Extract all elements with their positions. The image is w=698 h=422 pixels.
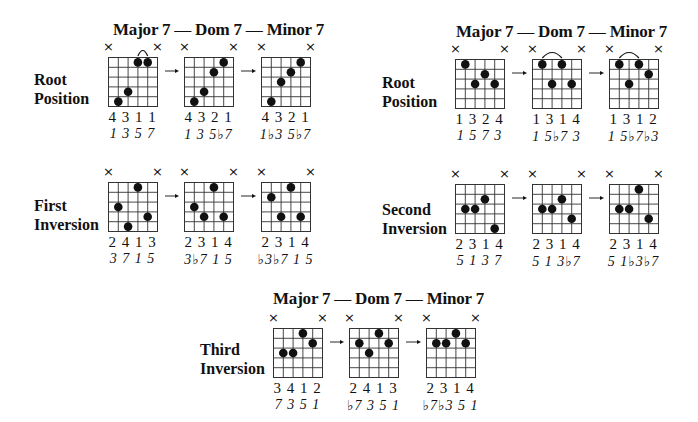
muted-string-icon: × (450, 167, 461, 180)
muted-string-icon: × (179, 40, 190, 53)
muted-string-icon: × (344, 311, 355, 324)
muted-string-icon: × (103, 165, 114, 178)
progression-arrow (165, 185, 181, 203)
fingering-label: 4 3 1 1 (98, 109, 168, 126)
arrow-right-icon (589, 195, 606, 201)
arrow-right-icon (165, 193, 181, 199)
finger-dot (567, 80, 576, 89)
row-label-line1: First (34, 196, 99, 215)
finger-dot (567, 215, 576, 224)
arrow-right-icon (512, 70, 529, 76)
finger-dot (299, 329, 308, 338)
finger-dot (461, 205, 470, 214)
finger-dot (452, 329, 461, 338)
interval-label: 5 1 3♭7 (517, 253, 597, 270)
finger-dot (625, 80, 634, 89)
finger-dot (114, 97, 123, 106)
muted-string-icon: × (228, 165, 239, 178)
finger-dot (644, 70, 653, 79)
fretboard-grid (261, 57, 312, 108)
muted-string-icon: × (152, 165, 163, 178)
finger-dot (210, 183, 219, 192)
fingering-label: 2 3 1 4 (251, 234, 321, 251)
progression-arrow (241, 185, 258, 203)
interval-label: 5 1 3 7 (440, 253, 520, 269)
finger-dot (558, 60, 567, 69)
finger-dot (635, 60, 644, 69)
finger-dot (200, 213, 209, 222)
finger-dot (490, 80, 499, 89)
fingering-label: 1 3 2 4 (445, 111, 515, 128)
finger-dot (308, 339, 317, 348)
finger-dot (548, 205, 557, 214)
section-header: Major 7—Dom 7—Minor 7 (456, 22, 667, 42)
finger-dot (471, 205, 480, 214)
header-dash: — (589, 22, 606, 42)
finger-dot (375, 329, 384, 338)
arrow-right-icon (589, 70, 606, 76)
barre-arc (619, 53, 639, 59)
interval-label: ♭7♭3 5 1 (411, 397, 491, 414)
fingering-label: 2 4 1 3 (98, 234, 168, 251)
fretboard-grid (609, 59, 660, 110)
muted-string-icon: × (470, 311, 481, 324)
row-label-line2: Inversion (200, 359, 265, 378)
muted-string-icon: × (653, 167, 664, 180)
barre-arc (138, 51, 148, 57)
fretboard-grid (349, 328, 400, 379)
finger-dot (287, 183, 296, 192)
fretboard-grid (108, 57, 159, 108)
interval-label: 3 7 1 5 (93, 251, 173, 267)
fingering-label: 2 3 1 4 (174, 234, 244, 251)
interval-label: 1 5♭7 3 (517, 128, 597, 145)
header-major-7: Major 7 (113, 20, 170, 40)
arrow-right-icon (241, 193, 258, 199)
finger-dot (134, 183, 143, 192)
fingering-label: 2 4 1 3 (339, 380, 409, 397)
finger-dot (615, 205, 624, 214)
muted-string-icon: × (268, 311, 279, 324)
muted-string-icon: × (317, 311, 328, 324)
muted-string-icon: × (228, 40, 239, 53)
muted-string-icon: × (256, 40, 267, 53)
row-label: SecondInversion (382, 200, 447, 238)
finger-dot (219, 58, 228, 67)
finger-dot (615, 60, 624, 69)
finger-dot (289, 349, 298, 358)
muted-string-icon: × (527, 167, 538, 180)
interval-label: 1 3 5♭7 (169, 126, 249, 143)
fingering-label: 2 3 1 4 (416, 380, 486, 397)
arrow-right-icon (512, 195, 529, 201)
progression-arrow (241, 60, 258, 78)
fretboard-grid (426, 328, 477, 379)
finger-dot (442, 339, 451, 348)
header-dom-7: Dom 7 (538, 22, 585, 42)
finger-dot (365, 349, 374, 358)
fretboard-grid (532, 59, 583, 110)
finger-dot (644, 215, 653, 224)
muted-string-icon: × (576, 167, 587, 180)
fretboard-grid (273, 328, 324, 379)
fingering-label: 2 3 1 4 (445, 236, 515, 253)
interval-label: 1 5♭7♭3 (594, 128, 674, 145)
interval-label: 1 3 5 7 (93, 126, 173, 142)
row-label: ThirdInversion (200, 340, 265, 378)
header-dash: — (174, 20, 191, 40)
interval-label: 3♭7 1 5 (169, 251, 249, 268)
row-label-line2: Inversion (34, 215, 99, 234)
header-minor-7: Minor 7 (427, 289, 484, 309)
muted-string-icon: × (103, 40, 114, 53)
finger-dot (490, 224, 499, 233)
row-label-line2: Position (382, 92, 437, 111)
progression-arrow (165, 60, 181, 78)
finger-dot (471, 80, 480, 89)
fingering-label: 4 3 2 1 (251, 109, 321, 126)
muted-string-icon: × (527, 42, 538, 55)
muted-string-icon: × (305, 40, 316, 53)
progression-arrow (406, 331, 423, 349)
finger-dot (190, 97, 199, 106)
header-minor-7: Minor 7 (267, 20, 324, 40)
muted-string-icon: × (421, 311, 432, 324)
header-dash: — (334, 289, 351, 309)
finger-dot (625, 205, 634, 214)
